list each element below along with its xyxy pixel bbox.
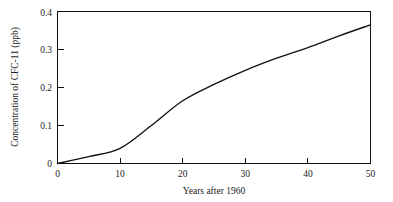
- chart-canvas: 0 10 20 30 40 50 0 0.1 0.2 0.3 0.4 Years…: [0, 0, 393, 202]
- x-tick-label-20: 20: [178, 169, 188, 179]
- plot-frame: [58, 12, 371, 164]
- y-axis-title: Concentration of CFC-11 (ppb): [10, 27, 21, 147]
- y-axis-ticks: [58, 12, 64, 164]
- x-tick-label-40: 40: [303, 169, 313, 179]
- data-series-cfc11-line: [58, 25, 371, 164]
- x-tick-label-0: 0: [55, 169, 60, 179]
- y-tick-label-0.1: 0.1: [40, 121, 52, 131]
- y-tick-label-0.2: 0.2: [40, 83, 52, 93]
- y-tick-label-0.3: 0.3: [40, 45, 52, 55]
- x-axis-ticks: [58, 158, 371, 164]
- x-tick-label-50: 50: [366, 169, 376, 179]
- x-tick-labels: 0 10 20 30 40 50: [55, 169, 375, 179]
- y-tick-label-0.4: 0.4: [40, 8, 52, 18]
- chart-figure: 0 10 20 30 40 50 0 0.1 0.2 0.3 0.4 Years…: [0, 0, 393, 202]
- x-tick-label-10: 10: [115, 169, 125, 179]
- x-tick-label-30: 30: [241, 169, 251, 179]
- y-tick-label-0: 0: [47, 159, 52, 169]
- y-tick-labels: 0 0.1 0.2 0.3 0.4: [40, 8, 52, 170]
- x-axis-title: Years after 1960: [183, 186, 246, 196]
